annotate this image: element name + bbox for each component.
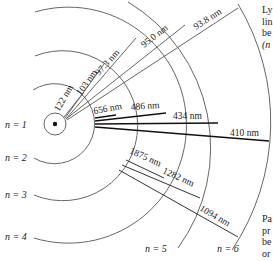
- label-410nm: 410 nm: [230, 128, 259, 138]
- paschen-caption-line: or: [262, 248, 272, 260]
- lyman-caption-line: lin: [262, 16, 273, 28]
- hydrogen-energy-level-diagram: 122 nm 103 nm 97.3 nm 95.0 nm 93.8 nm 65…: [0, 0, 273, 261]
- label-1282nm: 1282 nm: [161, 166, 196, 189]
- lyman-caption-line: be: [262, 27, 273, 39]
- level-label-n5: n = 5: [145, 243, 167, 254]
- balmer-line-434: [95, 123, 218, 124]
- label-434nm: 434 nm: [173, 111, 202, 121]
- level-label-n1: n = 1: [5, 119, 27, 130]
- paschen-caption-line: Pa: [262, 213, 272, 225]
- nucleus: [53, 122, 57, 126]
- label-656nm: 656 nm: [93, 101, 124, 116]
- orbit-n3: [34, 51, 138, 201]
- paschen-caption-line: be: [262, 236, 272, 248]
- paschen-caption: Pa pr be or: [262, 213, 272, 259]
- level-label-n4: n = 4: [5, 231, 27, 242]
- lyman-caption: Ly lin be (n: [262, 4, 273, 50]
- paschen-caption-line: pr: [262, 225, 272, 237]
- lyman-caption-line: (n: [262, 39, 273, 51]
- lyman-caption-line: Ly: [262, 4, 273, 16]
- level-label-n3: n = 3: [5, 189, 27, 200]
- label-95-0nm: 95.0 nm: [139, 22, 170, 49]
- lyman-line-950: [66, 25, 185, 119]
- level-label-n6: n = 6: [217, 243, 239, 254]
- label-1875nm: 1875 nm: [128, 146, 163, 169]
- label-97-3nm: 97.3 nm: [93, 47, 122, 77]
- balmer-line-656: [95, 115, 116, 118]
- level-label-n2: n = 2: [5, 152, 27, 163]
- label-1094nm: 1094 nm: [198, 203, 233, 229]
- label-486nm: 486 nm: [130, 100, 160, 112]
